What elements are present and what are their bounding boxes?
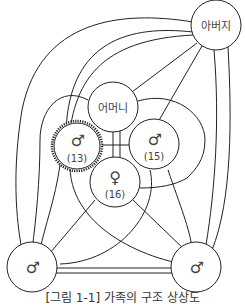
node-son-15: ♂ (15): [129, 119, 179, 169]
age-label: (16): [105, 189, 126, 200]
node-mother: 어머니: [88, 82, 138, 132]
node-son-13: ♂ (13): [52, 121, 102, 171]
age-label: (15): [144, 151, 165, 162]
male-symbol-icon: ♂: [148, 130, 162, 149]
node-daughter-16: ♀ (16): [90, 157, 140, 207]
female-symbol-icon: ♀: [109, 168, 121, 187]
node-male-right: ♂: [171, 242, 221, 292]
node-father: 아버지: [191, 0, 241, 50]
male-symbol-icon: ♂: [26, 258, 40, 277]
male-symbol-icon: ♂: [190, 258, 204, 277]
age-label: (13): [67, 153, 88, 164]
figure-caption: [그림 1-1] 가족의 구조 상상도: [0, 291, 245, 305]
male-symbol-icon: ♂: [71, 131, 85, 150]
father-label: 아버지: [201, 20, 231, 33]
node-male-left: ♂: [7, 242, 57, 292]
connection-lines: [16, 18, 230, 273]
mother-label: 어머니: [98, 102, 128, 115]
